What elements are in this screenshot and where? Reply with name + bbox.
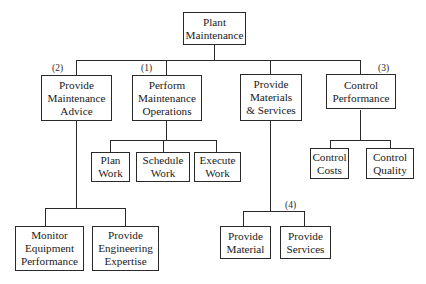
connector-operations-down [166,121,167,140]
node-label: Control Quality [373,151,407,177]
node-control-quality: Control Quality [366,148,414,179]
connector-to-expertise [125,208,126,226]
connector-to-monitor [45,208,46,226]
node-label: Provide Services [287,230,325,256]
connector-to-plan [110,140,111,152]
connector-level1-bar [76,60,361,61]
node-control-costs: Control Costs [310,148,349,179]
connector-to-materials [270,60,271,75]
node-monitor-equipment-performance: Monitor Equipment Performance [15,226,84,271]
connector-materials-down [270,121,271,211]
node-provide-material: Provide Material [220,226,271,259]
connector-to-schedule [163,140,164,152]
node-provide-materials-services: Provide Materials & Services [240,74,302,121]
node-plan-work: Plan Work [91,152,130,182]
connector-to-execute [216,140,217,152]
node-label: Plant Maintenance [186,16,244,42]
node-label: Monitor Equipment Performance [21,229,78,268]
node-label: Provide Materials & Services [246,78,295,117]
node-perform-maintenance-operations: Perform Maintenance Operations [132,75,202,121]
connector-control-down [360,110,361,140]
connector-advice-bar [45,208,126,209]
node-control-performance: Control Performance [326,74,396,109]
connector-materials-bar [243,211,305,212]
connector-to-control [360,60,361,75]
node-execute-work: Execute Work [194,152,241,182]
tag-materials: (4) [285,200,296,210]
node-schedule-work: Schedule Work [136,152,190,182]
node-label: Schedule Work [142,154,183,180]
node-label: Execute Work [199,154,235,180]
tag-advice: (2) [52,63,63,73]
tag-operations: (1) [141,63,152,73]
connector-advice-down [76,121,77,209]
node-label: Perform Maintenance Operations [138,79,196,118]
connector-to-material [243,211,244,226]
node-provide-services: Provide Services [280,226,331,259]
connector-root-down [214,44,215,60]
node-label: Provide Engineering Expertise [98,229,153,268]
node-label: Control Performance [332,79,389,105]
connector-to-operations [166,60,167,75]
node-label: Plan Work [98,154,123,180]
node-label: Provide Material [227,230,265,256]
node-plant-maintenance: Plant Maintenance [183,12,246,45]
node-label: Control Costs [312,151,346,177]
connector-control-bar [330,140,391,141]
node-provide-engineering-expertise: Provide Engineering Expertise [92,226,159,271]
connector-to-advice [76,60,77,75]
connector-to-services [304,211,305,226]
node-provide-maintenance-advice: Provide Maintenance Advice [41,75,112,121]
tag-control: (3) [378,63,389,73]
node-label: Provide Maintenance Advice [48,79,106,118]
